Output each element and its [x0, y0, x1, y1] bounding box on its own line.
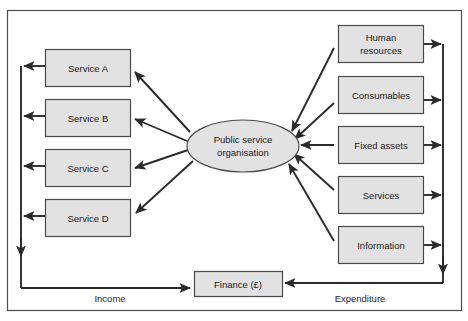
node-human-resources-label-line2: resources: [360, 45, 402, 56]
node-service-d-label: Service D: [67, 213, 108, 224]
node-services[interactable]: Services: [339, 177, 424, 214]
node-information-label: Information: [357, 240, 405, 251]
node-human-resources[interactable]: Human resources: [339, 26, 424, 63]
node-consumables-label: Consumables: [352, 90, 410, 101]
resource-boxes: Human resources Consumables Fixed assets…: [339, 26, 424, 264]
centre-label-line1: Public service: [214, 134, 273, 145]
node-service-b-label: Service B: [68, 113, 109, 124]
node-finance[interactable]: Finance (£): [195, 272, 283, 297]
node-service-b[interactable]: Service B: [46, 100, 131, 137]
node-fixed-assets[interactable]: Fixed assets: [339, 127, 424, 164]
income-label: Income: [94, 293, 125, 304]
node-service-a[interactable]: Service A: [46, 50, 131, 87]
node-service-c-label: Service C: [67, 163, 108, 174]
node-service-c[interactable]: Service C: [46, 150, 131, 187]
node-human-resources-label-line1: Human: [366, 32, 397, 43]
node-services-label: Services: [363, 190, 400, 201]
node-service-a-label: Service A: [68, 63, 109, 74]
expenditure-label: Expenditure: [335, 293, 386, 304]
diagram-canvas: Service A Service B Service C Service D …: [0, 0, 468, 321]
diagram-svg: Service A Service B Service C Service D …: [0, 0, 468, 321]
node-fixed-assets-label: Fixed assets: [354, 140, 408, 151]
node-consumables[interactable]: Consumables: [339, 77, 424, 114]
centre-label-line2: organisation: [217, 147, 269, 158]
node-service-d[interactable]: Service D: [46, 200, 131, 237]
node-finance-label: Finance (£): [214, 279, 262, 290]
node-public-service-organisation[interactable]: Public service organisation: [187, 120, 299, 172]
node-information[interactable]: Information: [339, 227, 424, 264]
